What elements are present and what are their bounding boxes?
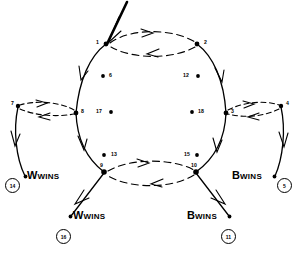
node-dot-10[interactable] — [193, 169, 199, 175]
graph-svg — [0, 0, 299, 254]
edge-10-to-9-dashed — [108, 175, 194, 187]
interior-dot-13[interactable] — [102, 153, 106, 157]
interior-label-17: 17 — [96, 109, 102, 114]
node-dot-2[interactable] — [195, 42, 200, 47]
edge-7-to-8-dashed — [20, 109, 74, 120]
interior-dot-17[interactable] — [109, 110, 113, 114]
terminal-circle-16[interactable]: 16 — [56, 229, 71, 244]
terminal-label-w-wins-14: WWINS — [27, 166, 59, 182]
edge-9-to-10-dashed — [108, 159, 194, 171]
interior-dot-18[interactable] — [190, 110, 194, 114]
edge-2-to-3 — [197, 44, 226, 113]
node-label-9: 9 — [100, 163, 103, 168]
terminal-letter-b-5: B — [232, 169, 240, 181]
interior-label-13: 13 — [111, 152, 117, 157]
interior-label-6: 6 — [109, 73, 112, 78]
edge-4-to-terminal-5 — [273, 107, 288, 178]
edge-3-to-10 — [196, 113, 226, 172]
interior-dot-12[interactable] — [196, 74, 200, 78]
edge-2-to-1-dashed — [111, 47, 195, 57]
terminal-letter-b-11: B — [187, 209, 195, 221]
node-label-1: 1 — [96, 40, 99, 45]
node-label-7: 7 — [11, 101, 14, 106]
node-label-8: 8 — [81, 109, 84, 114]
terminal-label-w-wins-16: WWINS — [73, 206, 105, 222]
node-label-4: 4 — [286, 101, 289, 106]
terminal-wins-text-16: WINS — [83, 212, 105, 221]
interior-label-18: 18 — [198, 109, 204, 114]
node-dot-4[interactable] — [279, 104, 283, 108]
node-dot-1[interactable] — [104, 42, 109, 47]
terminal-circle-14[interactable]: 14 — [5, 178, 20, 193]
edge-4-to-3-dashed — [228, 109, 279, 120]
edge-entry-to-1 — [107, 2, 127, 44]
terminal-circle-11[interactable]: 11 — [221, 229, 236, 244]
node-label-3: 3 — [231, 109, 234, 114]
terminal-wins-text-14: WINS — [37, 172, 59, 181]
edge-3-to-4-dashed — [228, 101, 279, 110]
terminal-label-b-wins-11: BWINS — [187, 206, 217, 222]
edge-1-to-2-dashed — [110, 29, 195, 43]
edge-7-to-terminal-14 — [11, 107, 27, 178]
interior-label-12: 12 — [183, 73, 189, 78]
node-dot-9[interactable] — [101, 169, 107, 175]
diagram-canvas: 1 2 3 10 9 8 7 4 6 12 17 18 13 15 WWINS … — [0, 0, 299, 254]
node-label-2: 2 — [204, 40, 207, 45]
terminal-letter-w-16: W — [73, 209, 83, 221]
interior-dot-15[interactable] — [195, 153, 199, 157]
node-dot-3[interactable] — [224, 111, 229, 116]
terminal-wins-text-11: WINS — [195, 212, 217, 221]
node-dot-8[interactable] — [74, 111, 79, 116]
terminal-wins-text-5: WINS — [240, 172, 262, 181]
edge-1-to-8 — [76, 44, 106, 113]
terminal-label-b-wins-5: BWINS — [232, 166, 262, 182]
node-label-10: 10 — [191, 163, 197, 168]
terminal-circle-5[interactable]: 5 — [277, 178, 292, 193]
interior-dot-6[interactable] — [101, 74, 105, 78]
node-dot-7[interactable] — [16, 104, 20, 108]
terminal-letter-w-14: W — [27, 169, 37, 181]
interior-label-15: 15 — [184, 152, 190, 157]
edge-8-to-7-dashed — [20, 100, 74, 110]
